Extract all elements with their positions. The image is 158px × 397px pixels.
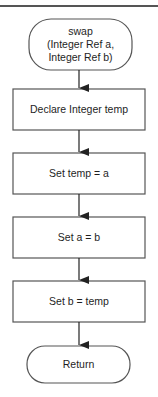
set-a-process-label: Set a = b xyxy=(13,217,145,258)
declare-process-label: Declare Integer temp xyxy=(13,89,145,130)
set-temp-process-label: Set temp = a xyxy=(13,153,145,194)
set-b-process-label: Set b = temp xyxy=(13,281,145,322)
start-terminator-label: swap (Integer Ref a, Integer Ref b) xyxy=(29,19,132,70)
return-terminator-label: Return xyxy=(27,346,130,383)
